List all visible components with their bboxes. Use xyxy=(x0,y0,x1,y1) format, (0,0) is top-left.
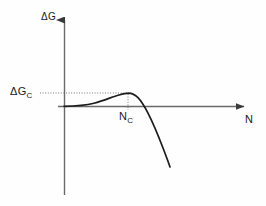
critical-energy-label-subscript: C xyxy=(27,91,33,100)
critical-energy-label: ΔGC xyxy=(10,86,32,97)
x-axis-label: N xyxy=(245,114,253,125)
critical-size-label-subscript: C xyxy=(127,116,133,125)
x-axis-label-text: N xyxy=(245,113,253,125)
critical-size-label-text: N xyxy=(119,110,127,122)
critical-energy-label-text: ΔG xyxy=(10,85,27,97)
y-axis-label-text: ΔG xyxy=(41,11,56,22)
free-energy-figure: ΔG ΔGC NC N xyxy=(0,0,266,206)
y-axis-label: ΔG xyxy=(41,11,56,22)
free-energy-curve xyxy=(64,93,170,167)
plot-canvas xyxy=(0,0,266,206)
critical-size-label: NC xyxy=(119,111,133,122)
